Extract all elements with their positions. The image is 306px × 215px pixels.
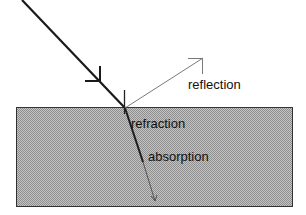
incident-ray xyxy=(22,0,125,108)
reflection-label: reflection xyxy=(188,78,241,91)
refraction-label: refraction xyxy=(131,117,185,130)
absorption-label: absorption xyxy=(148,150,209,163)
light-interaction-diagram xyxy=(0,0,306,215)
